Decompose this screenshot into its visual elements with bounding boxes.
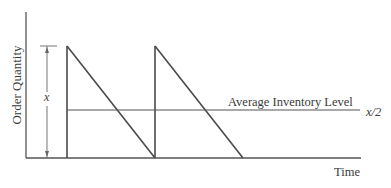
y-axis-label: Order Quantity bbox=[9, 45, 24, 125]
inventory-chart: Order Quantity x Average Inventory Level… bbox=[0, 0, 391, 188]
average-value-label: x/2 bbox=[365, 105, 381, 119]
x-axis-label: Time bbox=[334, 165, 360, 179]
sawtooth-series bbox=[67, 46, 243, 158]
dimension-label: x bbox=[43, 90, 50, 104]
average-line-label: Average Inventory Level bbox=[228, 95, 353, 109]
